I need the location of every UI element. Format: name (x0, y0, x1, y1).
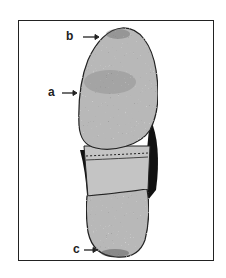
heel (86, 189, 148, 257)
wear-ball (84, 70, 136, 94)
arrow-c-icon (84, 248, 97, 253)
label-c: c (73, 243, 80, 255)
wear-heel (101, 249, 129, 257)
label-b: b (66, 30, 73, 42)
wear-toe (106, 29, 130, 39)
arrow-a-icon (62, 91, 77, 96)
shoe-sole-diagram (0, 0, 226, 278)
arrow-b-icon (83, 35, 99, 40)
label-a: a (48, 86, 55, 98)
